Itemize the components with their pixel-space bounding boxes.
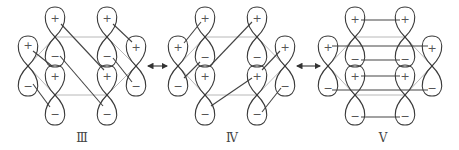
svg-text:+: +: [102, 70, 111, 83]
svg-text:+: +: [50, 70, 59, 83]
svg-text:+: +: [200, 70, 209, 83]
structure-IV: + − + − + − + − + − + − Ⅳ: [168, 7, 295, 145]
svg-text:+: +: [252, 12, 261, 25]
structure-label: Ⅲ: [76, 131, 88, 145]
svg-text:+: +: [50, 12, 59, 25]
svg-text:−: −: [350, 110, 359, 123]
svg-text:−: −: [50, 108, 59, 121]
svg-text:−: −: [400, 110, 409, 123]
svg-text:+: +: [102, 12, 111, 25]
svg-text:+: +: [252, 70, 261, 83]
p-orbital: + −: [422, 36, 442, 96]
svg-text:−: −: [131, 80, 140, 93]
structure-label: Ⅴ: [378, 131, 388, 145]
svg-text:−: −: [102, 50, 111, 63]
svg-text:−: −: [200, 51, 209, 64]
svg-text:+: +: [427, 42, 436, 55]
svg-text:−: −: [200, 108, 209, 121]
svg-text:−: −: [427, 82, 436, 95]
p-orbital: + −: [318, 36, 338, 96]
svg-text:−: −: [350, 53, 359, 66]
structure-III: + − + − + − + − + − + − Ⅲ: [18, 7, 146, 145]
svg-text:−: −: [252, 108, 261, 121]
structure-V: + − + − + − + − + − + − Ⅴ: [318, 7, 442, 145]
svg-text:+: +: [280, 41, 289, 54]
svg-text:+: +: [400, 70, 409, 83]
svg-text:−: −: [23, 80, 32, 93]
ring-frame: [178, 37, 285, 95]
svg-text:−: −: [173, 80, 182, 93]
svg-text:−: −: [280, 80, 289, 93]
svg-text:−: −: [400, 53, 409, 66]
svg-text:+: +: [400, 13, 409, 26]
p-orbital: + −: [168, 36, 188, 96]
svg-text:+: +: [350, 13, 359, 26]
svg-text:+: +: [173, 41, 182, 54]
svg-text:+: +: [200, 12, 209, 25]
structure-label: Ⅳ: [226, 131, 239, 145]
p-orbital: + −: [126, 36, 146, 96]
resonance-diagram: + − + − + − + − + − + − Ⅲ: [0, 0, 459, 150]
p-orbital: + −: [275, 36, 295, 96]
svg-text:+: +: [131, 41, 140, 54]
svg-text:−: −: [102, 108, 111, 121]
svg-text:−: −: [252, 51, 261, 64]
svg-text:+: +: [23, 39, 32, 52]
svg-text:−: −: [50, 50, 59, 63]
svg-text:−: −: [323, 82, 332, 95]
svg-text:+: +: [323, 41, 332, 54]
svg-text:+: +: [350, 70, 359, 83]
overlap-lines: [332, 20, 428, 117]
